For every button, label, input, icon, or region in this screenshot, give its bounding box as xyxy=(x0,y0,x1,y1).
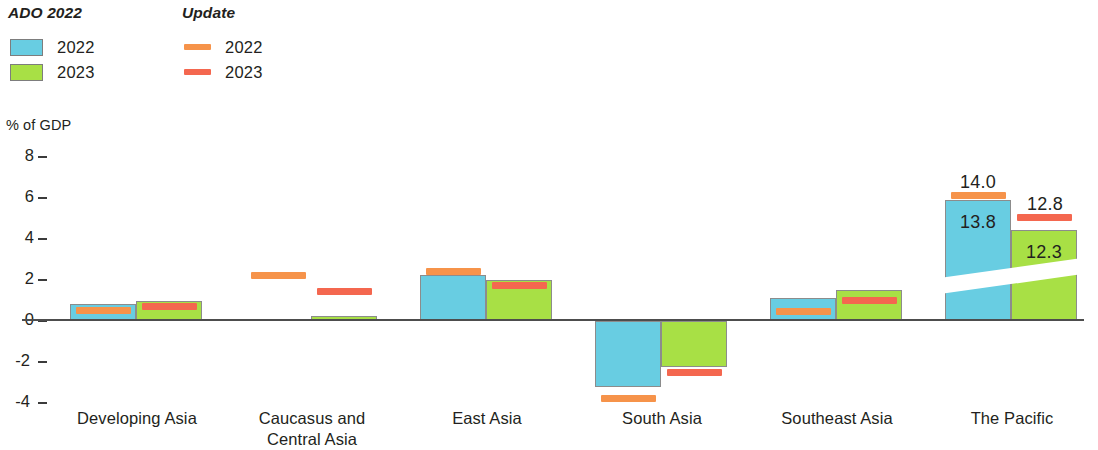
y-tick-label-minus4: -4 xyxy=(0,392,30,411)
plot-area: 8 6 4 2 0 -2 -4 xyxy=(0,0,1098,450)
y-tick-label-2: 2 xyxy=(4,269,34,288)
update-marker-east-asia-2023[interactable] xyxy=(492,282,547,289)
bar-south-asia-ado-2022[interactable] xyxy=(595,321,661,387)
x-axis-label-east-asia: East Asia xyxy=(397,408,577,429)
update-marker-caucasus-central-asia-2023[interactable] xyxy=(317,288,372,295)
y-tick-mark-minus4 xyxy=(38,402,47,404)
y-tick-mark-4 xyxy=(38,238,47,240)
update-marker-southeast-asia-2022[interactable] xyxy=(776,308,831,315)
bar-southeast-asia-ado-2023[interactable] xyxy=(836,290,902,321)
update-marker-the-pacific-2023[interactable] xyxy=(1017,214,1072,221)
zero-baseline xyxy=(22,319,1084,321)
x-axis-label-southeast-asia: Southeast Asia xyxy=(747,408,927,429)
y-tick-mark-6 xyxy=(38,197,47,199)
bar-south-asia-ado-2023[interactable] xyxy=(661,321,727,367)
y-tick-mark-8 xyxy=(38,156,47,158)
update-marker-south-asia-2023[interactable] xyxy=(667,369,722,376)
update-marker-southeast-asia-2023[interactable] xyxy=(842,297,897,304)
update-marker-developing-asia-2023[interactable] xyxy=(142,303,197,310)
y-tick-label-6: 6 xyxy=(4,187,34,206)
y-tick-mark-2 xyxy=(38,279,47,281)
x-axis-label-the-pacific: The Pacific xyxy=(922,408,1098,429)
update-marker-south-asia-2022[interactable] xyxy=(601,395,656,402)
x-axis-label-developing-asia: Developing Asia xyxy=(47,408,227,429)
update-marker-east-asia-2022[interactable] xyxy=(426,268,481,275)
y-tick-label-4: 4 xyxy=(4,228,34,247)
x-axis-label-south-asia: South Asia xyxy=(572,408,752,429)
data-label-the-pacific-update-2023: 12.8 xyxy=(1005,194,1085,215)
data-label-the-pacific-ado-2023: 12.3 xyxy=(1010,242,1078,263)
bar-east-asia-ado-2022[interactable] xyxy=(420,275,486,321)
y-tick-label-8: 8 xyxy=(4,146,34,165)
data-label-the-pacific-ado-2022: 13.8 xyxy=(944,212,1012,233)
update-marker-developing-asia-2022[interactable] xyxy=(76,307,131,314)
update-marker-the-pacific-2022[interactable] xyxy=(951,192,1006,199)
data-label-the-pacific-update-2022: 14.0 xyxy=(938,172,1018,193)
update-marker-caucasus-central-asia-2022[interactable] xyxy=(251,272,306,279)
y-tick-label-minus2: -2 xyxy=(0,351,30,370)
chart-page: ADO 2022 Update 2022 2023 2022 2023 % of… xyxy=(0,0,1098,450)
y-tick-mark-minus2 xyxy=(38,361,47,363)
x-axis-label-caucasus-central-asia: Caucasus and Central Asia xyxy=(222,408,402,450)
